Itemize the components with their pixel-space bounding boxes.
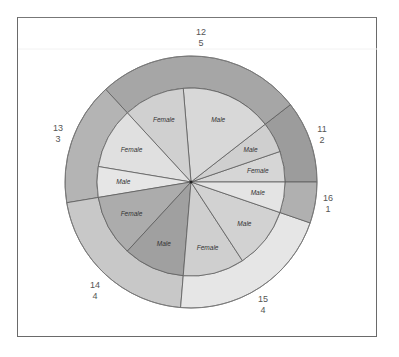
inner-label-sex: Male bbox=[157, 240, 171, 247]
outer-label-age: 15 bbox=[258, 294, 268, 304]
outer-label-age: 13 bbox=[53, 123, 63, 133]
inner-label-sex: Female bbox=[197, 244, 219, 251]
inner-label-sex: Male bbox=[237, 220, 251, 227]
outer-label-count: 4 bbox=[92, 291, 97, 301]
inner-label-sex: Male bbox=[211, 116, 225, 123]
outer-label-age: 12 bbox=[196, 27, 206, 37]
pie-center-dot bbox=[190, 181, 193, 184]
outer-label-age: 11 bbox=[317, 124, 326, 134]
inner-label-sex: Male bbox=[243, 146, 257, 153]
inner-label-sex: Male bbox=[116, 178, 130, 185]
outer-label-count: 4 bbox=[260, 305, 265, 315]
inner-label-sex: Female bbox=[121, 210, 143, 217]
inner-label-sex: Female bbox=[121, 146, 143, 153]
outer-label-age: 14 bbox=[90, 280, 100, 290]
outer-label-age: 16 bbox=[323, 193, 333, 203]
nested-pie-chart: 112125133144154161 FemaleMaleMaleFemaleF… bbox=[0, 0, 399, 357]
inner-label-sex: Male bbox=[251, 189, 265, 196]
inner-label-sex: Female bbox=[247, 167, 269, 174]
outer-label-count: 2 bbox=[319, 135, 324, 145]
inner-label-sex: Female bbox=[153, 116, 175, 123]
outer-label-count: 3 bbox=[55, 134, 60, 144]
outer-label-count: 5 bbox=[198, 38, 203, 48]
outer-label-count: 1 bbox=[325, 204, 330, 214]
